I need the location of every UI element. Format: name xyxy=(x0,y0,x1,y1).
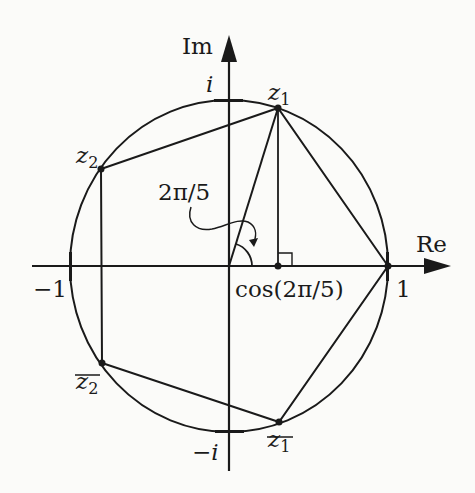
real-axis-arrow-icon xyxy=(424,258,451,274)
diagram-canvas: Im Re 1 −1 i −i z1 z2 z2 z1 2π/5 cos(2π/… xyxy=(0,0,475,493)
label-z1: z1 xyxy=(267,79,290,109)
point-z2bar xyxy=(99,360,106,367)
label-z1bar: z1 xyxy=(267,426,290,456)
angle-arc xyxy=(236,244,252,266)
angle-label: 2π/5 xyxy=(158,179,210,205)
label-z2: z2 xyxy=(75,142,98,172)
imag-axis-arrow-icon xyxy=(221,35,237,62)
label-minus-one: −1 xyxy=(33,276,67,302)
real-axis-label: Re xyxy=(416,231,447,257)
unit-circle-pentagon-diagram: Im Re 1 −1 i −i z1 z2 z2 z1 2π/5 cos(2π/… xyxy=(0,0,475,493)
leader-arrow-icon xyxy=(249,238,258,247)
point-one xyxy=(385,263,392,270)
point-cos-foot xyxy=(275,263,282,270)
point-z2 xyxy=(98,166,105,173)
label-z2bar: z2 xyxy=(75,368,98,398)
label-minus-i: −i xyxy=(192,439,219,465)
imag-axis-label: Im xyxy=(182,33,213,59)
cos-foot-label: cos(2π/5) xyxy=(235,276,344,302)
label-one: 1 xyxy=(396,276,411,302)
point-z1bar xyxy=(276,419,283,426)
label-i: i xyxy=(206,71,213,97)
